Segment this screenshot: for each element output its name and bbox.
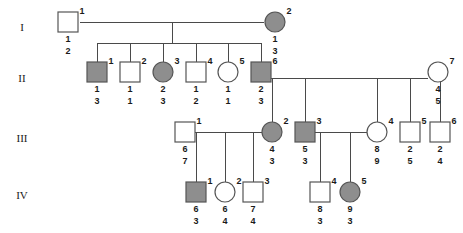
pedigree-chart: 1122131132113234125116237451672433534895…	[0, 0, 463, 233]
individual-id-label: 4	[331, 176, 336, 186]
allele-bottom: 3	[94, 96, 99, 106]
allele-top: 2	[258, 84, 263, 94]
allele-top: 9	[347, 204, 352, 214]
allele-bottom: 9	[374, 156, 379, 166]
allele-bottom: 4	[250, 216, 255, 226]
unaffected-male-symbol[interactable]	[186, 62, 206, 82]
allele-bottom: 3	[193, 216, 198, 226]
allele-bottom: 3	[302, 156, 307, 166]
individual-II-6[interactable]: 623	[251, 56, 278, 106]
allele-bottom: 3	[269, 156, 274, 166]
unaffected-female-symbol[interactable]	[367, 122, 387, 142]
individual-id-label: 3	[316, 116, 321, 126]
allele-top: 4	[269, 144, 274, 154]
individual-id-label: 4	[207, 56, 212, 66]
allele-top: 8	[317, 204, 322, 214]
individual-II-5[interactable]: 511	[218, 56, 245, 106]
individual-id-label: 2	[286, 6, 291, 16]
allele-bottom: 2	[193, 96, 198, 106]
unaffected-male-symbol[interactable]	[175, 122, 195, 142]
affected-male-symbol[interactable]	[251, 62, 271, 82]
unaffected-female-symbol[interactable]	[215, 182, 235, 202]
unaffected-female-symbol[interactable]	[428, 62, 448, 82]
individual-id-label: 1	[108, 56, 113, 66]
individual-id-label: 6	[272, 56, 277, 66]
individual-II-3[interactable]: 323	[153, 56, 180, 106]
individual-id-label: 1	[79, 6, 84, 16]
individual-IV-3[interactable]: 374	[243, 176, 270, 226]
affected-male-symbol[interactable]	[186, 182, 206, 202]
generation-label-IV: IV	[16, 189, 28, 201]
individual-II-2[interactable]: 211	[120, 56, 147, 106]
allele-bottom: 5	[407, 156, 412, 166]
individual-id-label: 3	[264, 176, 269, 186]
allele-bottom: 2	[65, 46, 70, 56]
individual-II-4[interactable]: 412	[186, 56, 213, 106]
allele-bottom: 7	[182, 156, 187, 166]
individual-id-label: 5	[421, 116, 426, 126]
individual-id-label: 2	[236, 176, 241, 186]
individual-id-label: 1	[196, 116, 201, 126]
allele-top: 1	[225, 84, 230, 94]
individual-III-3[interactable]: 353	[295, 116, 322, 166]
individual-IV-5[interactable]: 593	[340, 176, 367, 226]
generation-labels-layer: IIIIIIIV	[16, 21, 28, 201]
generation-label-II: II	[18, 72, 26, 84]
allele-top: 1	[127, 84, 132, 94]
affected-male-symbol[interactable]	[295, 122, 315, 142]
allele-top: 2	[160, 84, 165, 94]
allele-bottom: 5	[435, 96, 440, 106]
unaffected-female-symbol[interactable]	[218, 62, 238, 82]
individual-I-2[interactable]: 213	[265, 6, 292, 56]
allele-top: 8	[374, 144, 379, 154]
allele-bottom: 3	[160, 96, 165, 106]
individual-III-4[interactable]: 489	[367, 116, 394, 166]
affected-female-symbol[interactable]	[262, 122, 282, 142]
generation-label-I: I	[20, 21, 24, 33]
allele-bottom: 1	[225, 96, 230, 106]
affected-female-symbol[interactable]	[265, 12, 285, 32]
unaffected-male-symbol[interactable]	[400, 122, 420, 142]
allele-top: 1	[193, 84, 198, 94]
individual-id-label: 2	[141, 56, 146, 66]
unaffected-male-symbol[interactable]	[310, 182, 330, 202]
individual-symbols-layer: 1122131132113234125116237451672433534895…	[58, 6, 457, 226]
individual-IV-1[interactable]: 163	[186, 176, 213, 226]
allele-bottom: 4	[222, 216, 227, 226]
pedigree-canvas: 1122131132113234125116237451672433534895…	[0, 0, 463, 233]
allele-bottom: 4	[437, 156, 442, 166]
allele-bottom: 1	[127, 96, 132, 106]
individual-II-7[interactable]: 745	[428, 56, 455, 106]
unaffected-male-symbol[interactable]	[243, 182, 263, 202]
individual-id-label: 7	[449, 56, 454, 66]
allele-top: 1	[65, 34, 70, 44]
allele-top: 6	[193, 204, 198, 214]
individual-IV-2[interactable]: 264	[215, 176, 242, 226]
affected-male-symbol[interactable]	[87, 62, 107, 82]
individual-IV-4[interactable]: 483	[310, 176, 337, 226]
unaffected-male-symbol[interactable]	[120, 62, 140, 82]
allele-top: 4	[435, 84, 440, 94]
unaffected-male-symbol[interactable]	[58, 12, 78, 32]
allele-bottom: 3	[317, 216, 322, 226]
individual-III-5[interactable]: 525	[400, 116, 427, 166]
individual-III-2[interactable]: 243	[262, 116, 289, 166]
unaffected-male-symbol[interactable]	[430, 122, 450, 142]
individual-id-label: 4	[388, 116, 393, 126]
allele-top: 5	[302, 144, 307, 154]
individual-II-1[interactable]: 113	[87, 56, 114, 106]
allele-top: 7	[250, 204, 255, 214]
individual-III-6[interactable]: 624	[430, 116, 457, 166]
affected-female-symbol[interactable]	[340, 182, 360, 202]
allele-top: 6	[222, 204, 227, 214]
allele-top: 6	[182, 144, 187, 154]
affected-female-symbol[interactable]	[153, 62, 173, 82]
allele-bottom: 3	[272, 46, 277, 56]
allele-bottom: 3	[258, 96, 263, 106]
generation-label-III: III	[17, 132, 28, 144]
allele-top: 1	[94, 84, 99, 94]
individual-I-1[interactable]: 112	[58, 6, 85, 56]
individual-id-label: 3	[174, 56, 179, 66]
individual-id-label: 6	[451, 116, 456, 126]
individual-III-1[interactable]: 167	[175, 116, 202, 166]
